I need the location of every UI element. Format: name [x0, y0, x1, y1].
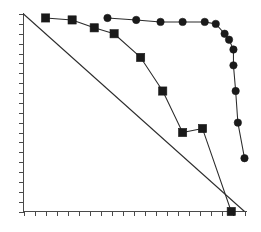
data-point-square-1 — [68, 16, 76, 24]
data-point-square-8 — [227, 207, 235, 215]
chart-plot-area — [0, 0, 261, 232]
data-point-circle-4 — [201, 18, 208, 25]
axis-group — [19, 13, 247, 216]
series-markers-square-series — [42, 14, 236, 216]
data-point-circle-1 — [133, 16, 140, 23]
data-point-square-7 — [198, 124, 206, 132]
data-point-square-6 — [179, 128, 187, 136]
data-point-square-4 — [137, 53, 145, 61]
y-axis-ticks — [19, 15, 24, 213]
data-point-circle-11 — [234, 119, 241, 126]
series-group — [24, 14, 249, 216]
data-point-circle-3 — [179, 18, 186, 25]
chart-figure — [0, 0, 261, 232]
data-point-circle-8 — [230, 46, 237, 53]
series-line-square-series — [46, 18, 232, 212]
series-line-circle-series — [107, 18, 244, 158]
data-point-circle-2 — [157, 18, 164, 25]
series-markers-circle-series — [104, 14, 248, 162]
series-line-diagonal-reference-line — [24, 14, 245, 212]
data-point-circle-5 — [212, 20, 219, 27]
x-axis-ticks — [25, 212, 246, 217]
data-point-circle-9 — [230, 62, 237, 69]
data-point-square-3 — [110, 30, 118, 38]
data-point-square-2 — [90, 24, 98, 32]
data-point-circle-10 — [232, 87, 239, 94]
data-point-square-5 — [159, 87, 167, 95]
data-point-circle-7 — [225, 36, 232, 43]
data-point-circle-12 — [241, 154, 248, 161]
data-point-circle-0 — [104, 14, 111, 21]
data-point-square-0 — [42, 14, 50, 22]
